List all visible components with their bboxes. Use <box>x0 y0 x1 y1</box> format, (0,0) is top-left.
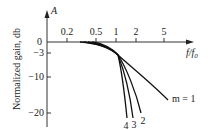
y-tick-label: −20 <box>28 107 44 118</box>
curve-label-m3: 3 <box>132 119 137 130</box>
curve-label-m2: 2 <box>141 115 146 126</box>
x-tick-label: 0.2 <box>61 26 74 37</box>
x-tick-label: 2 <box>134 26 139 37</box>
curve-m2 <box>84 42 141 113</box>
gain-chart: A f/f0 0.2 0.5 1 2 5 0 −3 −10 −20 Normal… <box>0 0 219 130</box>
y-ticks: 0 −3 −10 −20 <box>28 36 51 118</box>
x-axis-arrow-icon <box>186 40 194 45</box>
curve-m4 <box>92 42 127 118</box>
y-tick-label: −10 <box>28 71 44 82</box>
x-tick-label: 1 <box>114 26 119 37</box>
curve-label-m1: m = 1 <box>172 93 195 104</box>
y-tick-label: 0 <box>37 36 42 47</box>
y-axis-title: Normalized gain, db <box>11 28 22 110</box>
x-axis-title: f/f0 <box>186 47 198 60</box>
curve-label-m4: 4 <box>124 120 129 130</box>
y-tick-label: −3 <box>33 47 44 58</box>
curves <box>80 42 168 118</box>
x-ticks: 0.2 0.5 1 2 5 <box>61 26 167 42</box>
y-axis-arrow-icon <box>45 10 50 18</box>
y-axis-symbol: A <box>50 5 58 16</box>
x-tick-label: 5 <box>162 26 167 37</box>
x-tick-label: 0.5 <box>90 26 103 37</box>
